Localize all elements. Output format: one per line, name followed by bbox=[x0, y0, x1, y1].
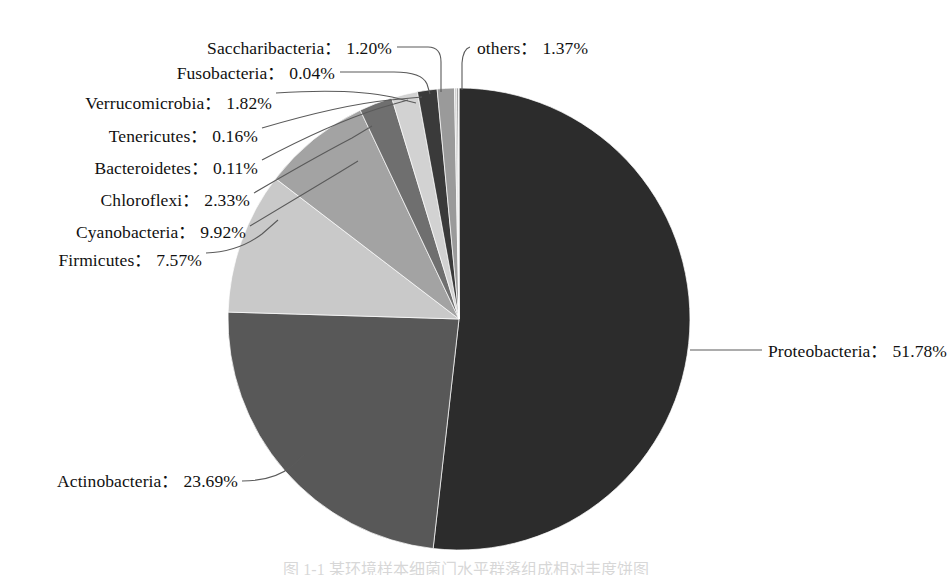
pie-label-actinobacteria: Actinobacteria：23.69% bbox=[57, 473, 238, 491]
pie-label-cyanobacteria-name: Cyanobacteria bbox=[76, 222, 178, 242]
pie-label-firmicutes: Firmicutes：7.57% bbox=[58, 252, 202, 270]
pie-label-tenericutes-name: Tenericutes bbox=[109, 126, 191, 146]
pie-label-bacteroidetes: Bacteroidetes：0.11% bbox=[94, 160, 258, 178]
pie-label-verrucomicrobia-sep: ： bbox=[204, 93, 222, 113]
leader-line-fusobacteria bbox=[340, 72, 430, 94]
pie-label-firmicutes-name: Firmicutes bbox=[58, 250, 134, 270]
pie-label-verrucomicrobia: Verrucomicrobia：1.82% bbox=[85, 95, 272, 113]
pie-label-chloroflexi-sep: ： bbox=[182, 190, 200, 210]
pie-label-proteobacteria: Proteobacteria：51.78% bbox=[768, 343, 947, 361]
pie-label-chloroflexi-value: 2.33% bbox=[200, 190, 250, 210]
pie-label-bacteroidetes-value: 0.11% bbox=[209, 158, 258, 178]
pie-label-others-name: others bbox=[477, 38, 520, 58]
pie-label-saccharibacteria-sep: ： bbox=[324, 38, 342, 58]
pie-label-saccharibacteria: Saccharibacteria：1.20% bbox=[207, 40, 392, 58]
pie-slice-proteobacteria[interactable] bbox=[433, 88, 690, 550]
pie-label-fusobacteria-value: 0.04% bbox=[285, 63, 335, 83]
pie-slice-actinobacteria[interactable] bbox=[228, 312, 459, 548]
pie-label-saccharibacteria-value: 1.20% bbox=[342, 38, 392, 58]
pie-label-proteobacteria-name: Proteobacteria bbox=[768, 341, 870, 361]
pie-label-bacteroidetes-sep: ： bbox=[191, 158, 209, 178]
pie-label-verrucomicrobia-value: 1.82% bbox=[222, 93, 272, 113]
pie-label-bacteroidetes-name: Bacteroidetes bbox=[94, 158, 191, 178]
pie-label-firmicutes-value: 7.57% bbox=[152, 250, 202, 270]
pie-label-others-value: 1.37% bbox=[538, 38, 588, 58]
pie-label-firmicutes-sep: ： bbox=[134, 250, 152, 270]
leader-line-saccharibacteria bbox=[397, 47, 441, 92]
pie-label-actinobacteria-name: Actinobacteria bbox=[57, 471, 161, 491]
figure-caption: 图 1-1 某环境样本细菌门水平群落组成相对丰度饼图 bbox=[0, 556, 932, 575]
pie-label-fusobacteria-sep: ： bbox=[267, 63, 285, 83]
pie-label-others-sep: ： bbox=[520, 38, 538, 58]
pie-label-verrucomicrobia-name: Verrucomicrobia bbox=[85, 93, 204, 113]
leader-line-others bbox=[462, 47, 470, 90]
pie-label-others: others：1.37% bbox=[477, 40, 588, 58]
pie-label-proteobacteria-sep: ： bbox=[870, 341, 888, 361]
pie-label-actinobacteria-value: 23.69% bbox=[179, 471, 238, 491]
pie-label-cyanobacteria-sep: ： bbox=[178, 222, 196, 242]
pie-label-chloroflexi-name: Chloroflexi bbox=[101, 190, 183, 210]
pie-label-tenericutes: Tenericutes：0.16% bbox=[109, 128, 258, 146]
pie-label-cyanobacteria: Cyanobacteria：9.92% bbox=[76, 224, 246, 242]
pie-label-actinobacteria-sep: ： bbox=[161, 471, 179, 491]
pie-label-tenericutes-sep: ： bbox=[190, 126, 208, 146]
pie-label-fusobacteria-name: Fusobacteria bbox=[177, 63, 268, 83]
pie-label-cyanobacteria-value: 9.92% bbox=[196, 222, 246, 242]
pie-slices-group bbox=[228, 88, 690, 550]
pie-label-chloroflexi: Chloroflexi：2.33% bbox=[101, 192, 250, 210]
pie-label-saccharibacteria-name: Saccharibacteria bbox=[207, 38, 324, 58]
pie-label-tenericutes-value: 0.16% bbox=[208, 126, 258, 146]
pie-label-proteobacteria-value: 51.78% bbox=[888, 341, 947, 361]
pie-label-fusobacteria: Fusobacteria：0.04% bbox=[177, 65, 335, 83]
